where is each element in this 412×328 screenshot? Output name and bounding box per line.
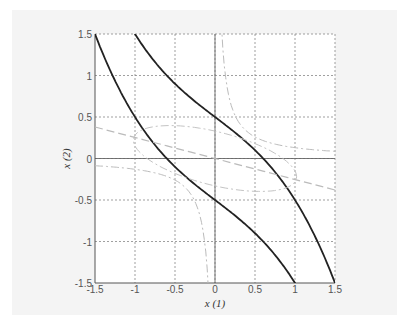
x-tick-label: 0 [212, 284, 218, 295]
phase-plot: -1.5-1-0.500.511.51.510.50-0.5-1-1.5x (1… [0, 0, 412, 328]
y-tick-label: -0.5 [75, 195, 93, 206]
x-tick-label: 1.5 [328, 284, 342, 295]
y-tick-label: 0 [86, 154, 92, 165]
y-tick-label: 1 [86, 71, 92, 82]
y-tick-label: -1.5 [75, 278, 93, 289]
y-tick-label: -1 [83, 237, 92, 248]
y-tick-label: 1.5 [78, 29, 92, 40]
x-tick-label: -0.5 [166, 284, 184, 295]
x-axis-label: x (1) [204, 297, 226, 310]
x-tick-label: -1 [131, 284, 140, 295]
x-tick-label: 1 [292, 284, 298, 295]
x-tick-label: 0.5 [248, 284, 262, 295]
y-tick-label: 0.5 [78, 112, 92, 123]
y-axis-label: x (2) [60, 148, 73, 170]
